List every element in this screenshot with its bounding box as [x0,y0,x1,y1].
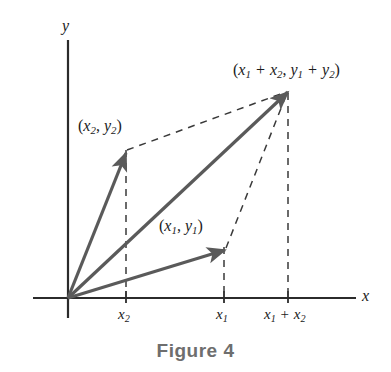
label-v1-y: y [185,217,192,234]
label-sum-close: ) [335,61,340,78]
tick-x2-sym: x [118,306,125,322]
tick-x2-sub: 2 [125,313,130,324]
label-v2-y: y [104,117,111,134]
tick-label-x2: x2 [118,307,130,324]
dashed-parallel-side-upper [127,92,286,150]
label-sum-plus-b: + [307,61,318,78]
label-v2-close: ) [116,117,121,134]
vector-addition-diagram [0,0,391,372]
label-sum-plus-a: + [255,61,266,78]
label-sum-comma: , [282,61,286,78]
label-sum-ya: y [290,61,297,78]
figure-page: y x (x2, y2) (x1, y1) (x1 + x2, y1 + y2)… [0,0,391,372]
label-vector-v1: (x1, y1) [159,218,203,236]
y-axis-label: y [62,18,69,34]
x-axis-label: x [362,288,369,304]
tick-label-x1-plus-x2: x1 + x2 [264,307,306,324]
tick-sum-sub2: 2 [300,313,305,324]
tick-sum-sym1: x [264,306,271,322]
figure-caption: Figure 4 [0,340,391,362]
label-v1-close: ) [197,217,202,234]
label-sum-xa-sub: 1 [245,68,250,80]
label-v2-comma: , [96,117,100,134]
tick-sum-op: + [280,306,290,322]
label-sum-xb: x [270,61,277,78]
tick-sum-sub1: 1 [271,313,276,324]
label-vector-v2: (x2, y2) [78,118,122,136]
label-sum-ya-sub: 1 [298,68,303,80]
label-v1-comma: , [177,217,181,234]
tick-x1-sym: x [216,306,223,322]
tick-label-x1: x1 [216,307,228,324]
label-vector-sum: (x1 + x2, y1 + y2) [233,62,340,80]
tick-x1-sub: 1 [223,313,228,324]
vector-v2-arrow [68,153,126,298]
dashed-parallel-side-lower [226,93,287,248]
